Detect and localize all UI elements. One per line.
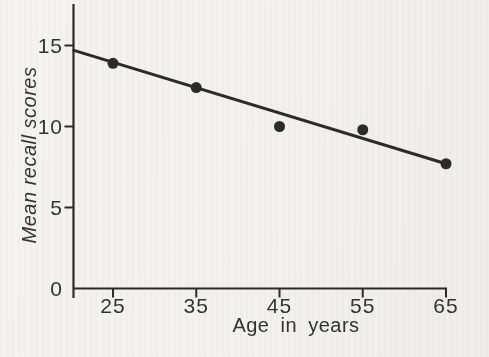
data-point (441, 158, 452, 169)
y-axis-title: Mean recall scores (18, 67, 40, 244)
regression-line (74, 50, 446, 163)
x-tick-label: 65 (433, 294, 458, 317)
plot-area: 051015 2535455565 Age in years Mean reca… (18, 4, 459, 336)
x-axis-title: Age in years (232, 314, 359, 336)
data-point (357, 124, 368, 135)
y-axis-ticks: 051015 (38, 34, 74, 300)
x-axis-ticks: 2535455565 (100, 289, 458, 318)
y-tick-label: 5 (50, 196, 63, 219)
data-point (108, 58, 119, 69)
scanned-figure-page: 051015 2535455565 Age in years Mean reca… (0, 0, 489, 357)
y-tick-label: 15 (38, 34, 63, 57)
data-point (191, 82, 202, 93)
x-tick-label: 25 (100, 294, 125, 317)
regression-line-group (74, 50, 446, 163)
x-tick-label: 35 (184, 294, 209, 317)
y-tick-label: 0 (50, 277, 63, 300)
scatter-plot: 051015 2535455565 Age in years Mean reca… (0, 0, 489, 357)
y-tick-label: 10 (38, 115, 63, 138)
data-point (274, 121, 285, 132)
